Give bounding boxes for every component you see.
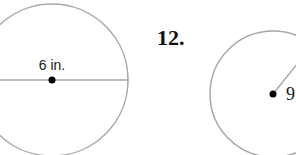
geometry-figures: 6 in. 12. 9 <box>0 0 296 155</box>
circle-outline <box>210 31 296 155</box>
center-dot <box>270 91 277 98</box>
circle-diameter-figure: 6 in. <box>0 4 128 155</box>
radius-label: 9 <box>286 84 295 104</box>
diameter-label: 6 in. <box>39 57 65 73</box>
circle-radius-figure: 9 <box>210 31 296 155</box>
center-dot <box>49 77 56 84</box>
problem-number: 12. <box>157 25 185 50</box>
